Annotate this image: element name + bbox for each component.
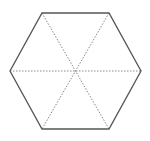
hexagon-diagonals (10, 13, 141, 129)
hexagon-svg (0, 0, 150, 141)
hexagon-diagram (0, 0, 150, 141)
